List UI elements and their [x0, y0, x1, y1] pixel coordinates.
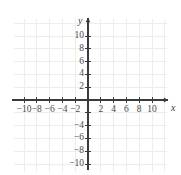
- x-axis-tick-label: −2: [63, 105, 87, 115]
- y-axis-tick-label: −6: [60, 133, 84, 143]
- y-axis-tick-label: 10: [60, 31, 84, 41]
- x-axis-name: x: [171, 103, 175, 113]
- axis-lines: [12, 18, 168, 170]
- y-axis-tick-label: −10: [60, 159, 84, 169]
- y-axis-tick-label: 8: [60, 44, 84, 54]
- y-axis-tick-label: −8: [60, 146, 84, 156]
- x-axis-tick-label: 10: [140, 105, 164, 115]
- y-axis-tick-label: 4: [60, 69, 84, 79]
- y-axis-name: y: [78, 16, 82, 26]
- grid-lines: [14, 19, 167, 172]
- y-axis-tick-label: 6: [60, 57, 84, 67]
- y-axis-arrowhead: [86, 18, 91, 22]
- x-axis-arrowhead: [164, 98, 168, 103]
- y-axis-tick-label: 2: [60, 82, 84, 92]
- y-axis-tick-label: −4: [60, 121, 84, 131]
- coordinate-plane: −10−8−6−4−2246810108642−4−6−8−10 x y: [0, 0, 181, 175]
- coordinate-plane-svg: [0, 0, 181, 175]
